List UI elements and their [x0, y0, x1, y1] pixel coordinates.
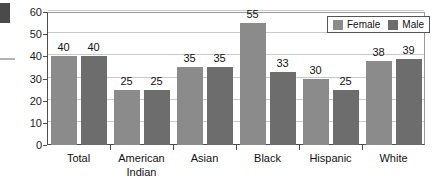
x-axis-label-line: White	[379, 151, 407, 165]
bar-value-label: 25	[339, 76, 351, 87]
male-swatch	[388, 20, 398, 30]
bar-value-label: 25	[150, 76, 162, 87]
bar-value-label: 35	[213, 53, 225, 64]
bar-value-label: 55	[246, 9, 258, 20]
legend-entry[interactable]: Female	[333, 20, 380, 30]
y-axis-tick-label: 10	[30, 117, 42, 128]
y-axis-tick-label: 50	[30, 29, 42, 40]
bar-value-label: 30	[309, 65, 321, 76]
bar-male[interactable]: 25	[333, 90, 359, 145]
x-axis-tick-mark	[110, 145, 111, 150]
bar-value-label: 40	[87, 42, 99, 53]
female-swatch	[333, 20, 343, 30]
bar-female[interactable]: 30	[303, 79, 329, 146]
legend-entry[interactable]: Male	[388, 20, 424, 30]
x-axis-label-line: Black	[254, 151, 281, 165]
y-axis-tick-label: 20	[30, 95, 42, 106]
bar-male[interactable]: 35	[207, 67, 233, 145]
chart-legend: FemaleMale	[327, 16, 430, 33]
bar-male[interactable]: 40	[81, 56, 107, 145]
bar-female[interactable]: 55	[240, 23, 266, 145]
x-axis-category-label: White	[379, 151, 407, 165]
x-axis-label-line: Total	[67, 151, 90, 165]
bar-female[interactable]: 35	[177, 67, 203, 145]
y-axis-tick-label: 60	[30, 7, 42, 18]
bar-male[interactable]: 25	[144, 90, 170, 145]
gridline	[48, 10, 424, 11]
y-axis: 0102030405060	[20, 12, 47, 145]
x-axis-category-label: Total	[67, 151, 90, 165]
x-axis-tick-mark	[236, 145, 237, 150]
bar-value-label: 38	[372, 47, 384, 58]
x-axis-label-line: Indian	[118, 165, 164, 179]
bar-chart-figure: 0102030405060 404025253535553330253839 T…	[0, 0, 439, 183]
page-edge-artifact-dash	[0, 58, 15, 60]
bar-female[interactable]: 38	[366, 61, 392, 145]
page-edge-artifact-block	[0, 3, 10, 23]
bar-female[interactable]: 25	[114, 90, 140, 145]
x-axis-labels: TotalAmericanIndianAsianBlackHispanicWhi…	[47, 151, 425, 183]
bar-value-label: 25	[120, 76, 132, 87]
bar-value-label: 33	[276, 58, 288, 69]
bar-female[interactable]: 40	[51, 56, 77, 145]
bar-male[interactable]: 39	[396, 59, 422, 145]
bar-value-label: 35	[183, 53, 195, 64]
x-axis-category-label: Hispanic	[309, 151, 351, 165]
x-axis-category-label: Black	[254, 151, 281, 165]
bar-group: 4040	[51, 12, 107, 145]
x-axis-tick-mark	[299, 145, 300, 150]
y-axis-tick-label: 0	[36, 140, 42, 151]
x-axis-label-line: American	[118, 151, 164, 165]
bar-value-label: 39	[402, 45, 414, 56]
bar-group: 2525	[114, 12, 170, 145]
legend-label: Male	[402, 20, 424, 30]
x-axis-tick-mark	[173, 145, 174, 150]
y-axis-tick-label: 40	[30, 51, 42, 62]
bar-value-label: 40	[57, 42, 69, 53]
bar-group: 3535	[177, 12, 233, 145]
bar-male[interactable]: 33	[270, 72, 296, 145]
x-axis-tick-mark	[362, 145, 363, 150]
legend-label: Female	[347, 20, 380, 30]
x-axis-category-label: AmericanIndian	[118, 151, 164, 179]
y-axis-tick-label: 30	[30, 73, 42, 84]
x-axis-label-line: Hispanic	[309, 151, 351, 165]
bar-group: 5533	[240, 12, 296, 145]
x-axis-category-label: Asian	[191, 151, 219, 165]
x-axis-label-line: Asian	[191, 151, 219, 165]
